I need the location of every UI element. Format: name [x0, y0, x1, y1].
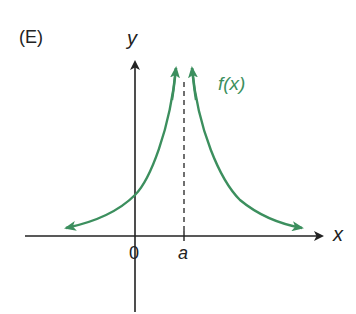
graph-canvas	[0, 0, 356, 314]
graph-figure: (E) y x 0 a f(x)	[0, 0, 356, 314]
origin-label: 0	[129, 244, 139, 262]
curve-right-top-arrow	[192, 68, 196, 100]
function-label: f(x)	[218, 74, 245, 93]
x-axis-label: x	[333, 224, 343, 244]
y-axis-label: y	[127, 28, 137, 48]
asymptote-label: a	[178, 244, 188, 262]
curve-left-branch	[66, 68, 176, 228]
curve-right-branch	[192, 68, 302, 228]
curve-left-top-arrow	[172, 68, 176, 100]
panel-label: (E)	[19, 28, 43, 46]
